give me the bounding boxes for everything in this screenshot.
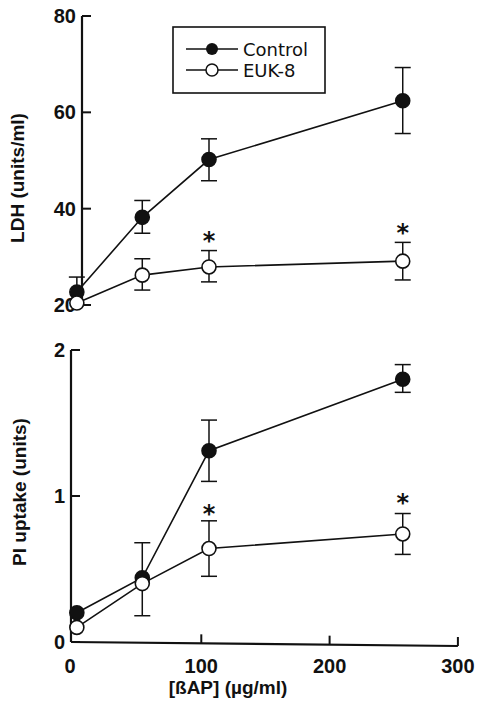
euk8-point-marker [202,542,216,556]
y-tick-label: 40 [54,198,76,220]
legend: Control EUK-8 [173,27,325,93]
x-axis-line [71,642,458,646]
figure: 20406080** 0120100200300** LDH (units/ml… [0,0,485,702]
control-point-marker [135,210,149,224]
y-tick-label: 0 [54,631,65,653]
y-tick-label: 1 [54,485,65,507]
control-point-marker [396,372,410,386]
significance-star: * [396,489,409,517]
series-line-control [77,379,403,613]
ldh-y-axis-title: LDH (units/ml) [7,113,28,243]
euk8-point-marker [70,620,84,634]
euk8-point-marker [135,268,149,282]
euk8-point-marker [135,577,149,591]
pi-y-axis-title: PI uptake (units) [9,418,30,566]
x-tick-label: 300 [441,655,474,677]
y-tick-label: 2 [54,339,65,361]
euk8-point-marker [396,527,410,541]
y-tick-label: 60 [54,101,76,123]
open-circle-icon [206,64,218,76]
control-point-marker [202,153,216,167]
x-axis-title: [ßAP] (µg/ml) [169,677,288,698]
legend-label-euk8: EUK-8 [243,60,295,81]
significance-star: * [203,500,216,528]
control-point-marker [396,94,410,108]
x-tick-label: 100 [185,655,218,677]
significance-star: * [203,227,216,255]
y-tick-label: 80 [54,5,76,27]
x-tick-label: 200 [313,655,346,677]
control-point-marker [70,606,84,620]
euk8-point-marker [396,254,410,268]
pi-uptake-panel: 0120100200300** [54,339,475,677]
euk8-point-marker [70,296,84,310]
control-point-marker [202,444,216,458]
euk8-point-marker [202,260,216,274]
series-line-euk-8 [77,261,403,303]
significance-star: * [396,219,409,247]
x-tick-label: 0 [64,655,75,677]
legend-label-control: Control [243,39,308,60]
series-line-euk-8 [77,534,403,627]
filled-circle-icon [206,43,218,55]
